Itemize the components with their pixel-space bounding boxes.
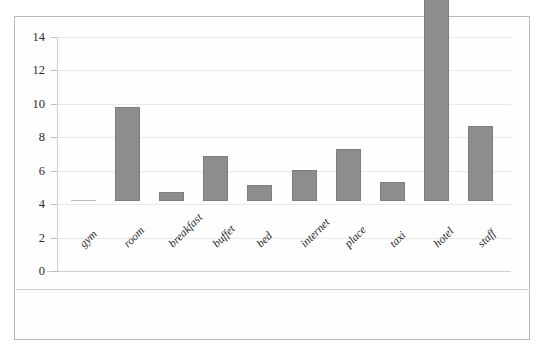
y-axis-tick-label: 2 bbox=[19, 231, 45, 244]
y-axis-tick-label: 10 bbox=[19, 98, 45, 111]
bar-buffet bbox=[203, 156, 228, 201]
y-axis-tick-label: 6 bbox=[19, 164, 45, 177]
y-axis: 02468101214 bbox=[19, 17, 45, 341]
bar-chart: 02468101214 gymroombreakfastbuffetbedint… bbox=[15, 17, 531, 341]
y-axis-tick-label: 4 bbox=[19, 198, 45, 211]
bar-bed bbox=[247, 185, 272, 201]
y-axis-tick-label: 8 bbox=[19, 131, 45, 144]
scan-artifact-strip bbox=[0, 0, 543, 10]
y-axis-tick-label: 12 bbox=[19, 64, 45, 77]
y-axis-tick-label: 14 bbox=[19, 31, 45, 44]
bar-gym bbox=[71, 200, 96, 201]
bar-staff bbox=[468, 126, 493, 201]
chart-frame: 02468101214 gymroombreakfastbuffetbedint… bbox=[14, 16, 530, 340]
bar-room bbox=[115, 107, 140, 201]
y-axis-tick-label: 0 bbox=[19, 265, 45, 278]
bar-breakfast bbox=[159, 192, 184, 201]
bar-taxi bbox=[380, 182, 405, 201]
x-axis-labels: gymroombreakfastbuffetbedinternetplaceta… bbox=[47, 235, 511, 305]
bar-internet bbox=[292, 170, 317, 201]
bar-place bbox=[336, 149, 361, 201]
bar-hotel bbox=[424, 0, 449, 201]
